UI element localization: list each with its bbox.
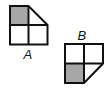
figure-b: B xyxy=(65,28,103,83)
figure-a-shaded-cell xyxy=(10,6,29,25)
figure-b-label: B xyxy=(78,28,87,43)
diagram-canvas: A B xyxy=(0,0,107,88)
figure-b-shaded-cell xyxy=(65,64,84,84)
figure-a-label: A xyxy=(23,47,33,62)
figure-a: A xyxy=(10,6,48,62)
